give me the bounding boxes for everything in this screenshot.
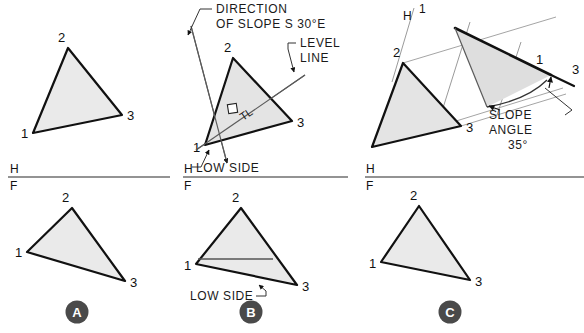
- fold-label-h-a: H: [10, 162, 19, 176]
- vertex-label-1-front-b: 1: [184, 258, 191, 273]
- badge-letter-a: A: [72, 305, 82, 320]
- vertex-label-1-front-c: 1: [369, 256, 376, 271]
- fold-label-f-b: F: [184, 179, 191, 193]
- vertex-label-2-top-b: 2: [224, 40, 231, 55]
- direction-of-slope-text-line2: OF SLOPE S 30°E: [216, 17, 326, 31]
- drawing-sheet: 1 2 3 H F 1 2 3 A 1: [0, 0, 584, 333]
- vertex-label-1-top-a: 1: [21, 126, 28, 141]
- vertex-label-2-front-a: 2: [62, 190, 69, 205]
- fold-label-h-c: H: [403, 9, 412, 23]
- vertex-label-3-top-a: 3: [127, 108, 134, 123]
- vertex-label-2-front-c: 2: [410, 188, 417, 203]
- right-angle-symbol-b: [227, 103, 237, 113]
- level-line-text-line1: LEVEL: [300, 36, 340, 50]
- level-line-text-line2: LINE: [300, 51, 329, 65]
- vertex-label-2-top-a: 2: [58, 30, 65, 45]
- vertex-label-3-front-a: 3: [130, 275, 137, 290]
- slope-angle-text-line2: ANGLE: [489, 123, 533, 137]
- panel-badge-c: C: [439, 301, 462, 324]
- fold-label-f-c-hf: F: [366, 179, 373, 193]
- vertex-label-2-top-c: 2: [393, 45, 400, 60]
- vertex-label-1-edge-c: 1: [536, 52, 543, 67]
- direction-of-slope-text-line1: DIRECTION: [216, 2, 287, 16]
- badge-letter-b: B: [246, 305, 255, 320]
- vertex-label-1-front-a: 1: [15, 245, 22, 260]
- fold-label-h-b: H: [184, 162, 193, 176]
- vertex-label-3-front-b: 3: [302, 279, 309, 294]
- low-side-text-bottom-b: LOW SIDE: [190, 289, 253, 303]
- panel-badge-b: B: [240, 301, 263, 324]
- slope-angle-value-text: 35°: [508, 138, 528, 152]
- panel-badge-a: A: [66, 301, 89, 324]
- fold-label-h-c-hf: H: [366, 162, 375, 176]
- slope-angle-text-line1: SLOPE: [489, 108, 532, 122]
- vertex-label-2-front-b: 2: [232, 190, 239, 205]
- vertex-label-3-top-b: 3: [297, 115, 304, 130]
- fold-label-f-a: F: [10, 179, 17, 193]
- vertex-label-3-top-c: 3: [466, 120, 473, 135]
- fold-label-1-c: 1: [419, 2, 426, 16]
- engineering-drawing-svg: 1 2 3 H F 1 2 3 A 1: [0, 0, 584, 333]
- badge-letter-c: C: [445, 305, 455, 320]
- vertex-label-3-front-c: 3: [475, 274, 482, 289]
- vertex-label-3-edge-c: 3: [572, 62, 579, 77]
- low-side-text-top-b: LOW SIDE: [196, 161, 259, 175]
